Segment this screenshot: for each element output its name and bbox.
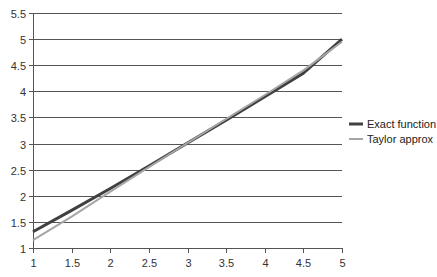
y-tick-label: 4.5 [11, 60, 26, 72]
y-tick-label: 4 [20, 86, 26, 98]
y-axis-ticks: 11.522.533.544.555.5 [11, 8, 33, 255]
y-tick-label: 1 [20, 243, 26, 255]
y-tick-label: 3.5 [11, 112, 26, 124]
x-tick-label: 4.5 [296, 257, 311, 269]
x-axis-ticks: 11.522.533.544.55 [30, 248, 345, 269]
legend-item-exact-function: Exact function [349, 118, 436, 130]
series-taylor-approx [33, 42, 342, 241]
legend-label-exact: Exact function [367, 118, 436, 130]
y-tick-label: 2.5 [11, 165, 26, 177]
legend-item-taylor-approx: Taylor approx [349, 133, 434, 145]
x-tick-label: 2 [107, 257, 113, 269]
y-tick-label: 3 [20, 139, 26, 151]
x-tick-label: 4 [262, 257, 268, 269]
x-tick-label: 1 [30, 257, 36, 269]
x-tick-label: 3 [185, 257, 191, 269]
y-tick-label: 2 [20, 191, 26, 203]
x-tick-label: 3.5 [219, 257, 234, 269]
legend: Exact function Taylor approx [349, 118, 436, 145]
y-tick-label: 5 [20, 34, 26, 46]
series-exact-function [33, 39, 342, 232]
x-tick-label: 5 [339, 257, 345, 269]
x-tick-label: 1.5 [65, 257, 80, 269]
y-tick-label: 5.5 [11, 8, 26, 20]
line-chart: 11.522.533.544.555.5 11.522.533.544.55 E… [0, 0, 437, 277]
series-lines [33, 39, 342, 240]
legend-label-taylor: Taylor approx [367, 133, 434, 145]
axes [33, 13, 342, 249]
gridlines [33, 14, 342, 223]
y-tick-label: 1.5 [11, 217, 26, 229]
x-tick-label: 2.5 [142, 257, 157, 269]
